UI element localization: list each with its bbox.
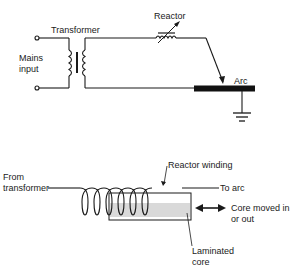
terminal-bottom-icon [35, 86, 39, 90]
ground-icon [233, 91, 251, 121]
electrode-lead [206, 38, 223, 82]
circuit-diagram: Transformer Reactor Mains input Arc [19, 11, 255, 121]
to-arc-label: To arc [220, 183, 245, 193]
laminated-label-line1: Laminated [192, 246, 234, 256]
core-moved-label-line1: Core moved in [231, 203, 290, 213]
arc-label: Arc [234, 76, 248, 86]
core-moved-label-line2: or out [231, 214, 255, 224]
transformer-primary-coil-icon [69, 50, 72, 76]
mains-label-line2: input [19, 64, 39, 74]
mains-label-line1: Mains [19, 53, 44, 63]
workpiece-bar [194, 86, 255, 92]
laminated-label-line2: core [192, 257, 210, 267]
core-movement-arrow-icon [195, 204, 226, 212]
from-label-line2: transformer [3, 183, 49, 193]
welding-diagram: Transformer Reactor Mains input Arc From… [0, 0, 299, 274]
electrode-arrow-icon [219, 76, 225, 84]
reactor-detail: From transformer Reactor winding To arc … [3, 160, 290, 267]
terminal-top-icon [35, 36, 39, 40]
variable-reactor-icon [156, 21, 180, 43]
from-label-line1: From [3, 172, 24, 182]
reactor-label: Reactor [154, 11, 186, 21]
transformer-label: Transformer [51, 25, 100, 35]
reactor-winding-label: Reactor winding [168, 160, 233, 170]
transformer-secondary-coil-icon [83, 50, 86, 76]
